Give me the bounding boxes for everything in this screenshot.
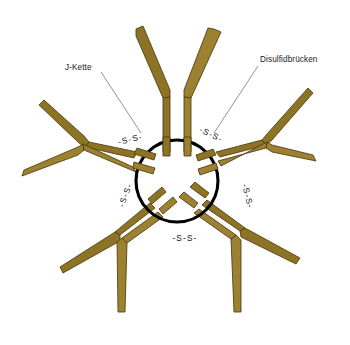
canvas-background [0,0,350,345]
igm-pentamer-diagram: -S-S- -S-S- -S-S- -S-S- -S-S- J-Kette Di… [0,0,350,345]
j-chain-label: J-Kette [65,63,92,72]
disulfide-bond-label: -S-S- [172,233,197,243]
fc-stem-tip [184,137,191,156]
figure-canvas: -S-S- -S-S- -S-S- -S-S- -S-S- J-Kette Di… [0,0,350,345]
fab-arm [117,238,127,312]
fc-stem-tip [163,137,170,156]
disulfide-bridges-label: Disulfidbrücken [260,55,318,64]
